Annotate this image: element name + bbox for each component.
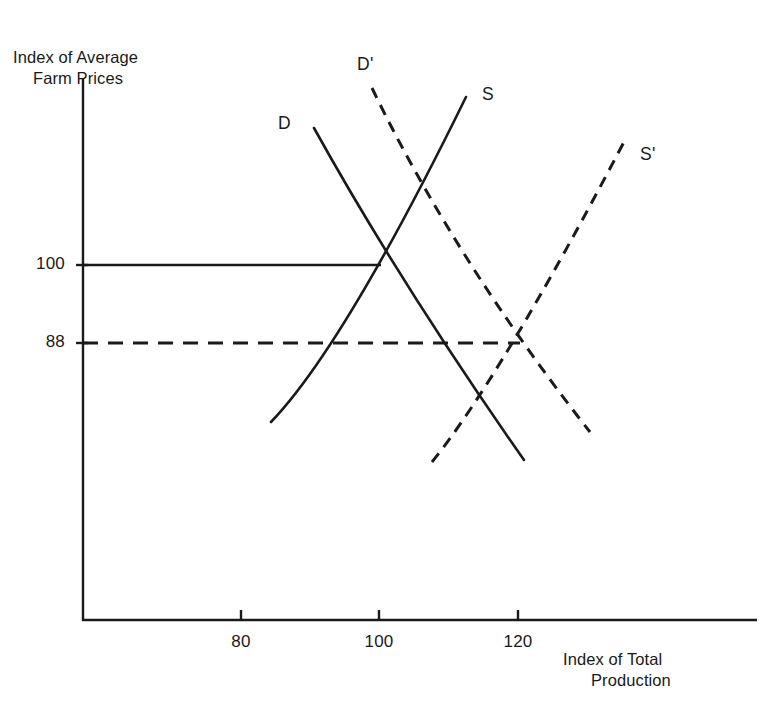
x-tick-label-80: 80 bbox=[216, 632, 266, 652]
x-axis-title-line1: Index of Total bbox=[563, 650, 662, 668]
y-tick-label-100: 100 bbox=[5, 254, 65, 274]
y-axis-title-line1: Index of Average bbox=[13, 48, 138, 66]
y-axis-title-line2: Farm Prices bbox=[13, 68, 138, 89]
supply-curve-s bbox=[271, 97, 466, 422]
supply-curve-s-prime bbox=[432, 140, 625, 462]
x-axis-title-line2: Production bbox=[563, 670, 671, 691]
farm-price-supply-demand-chart: Index of Average Farm Prices Index of To… bbox=[0, 0, 784, 705]
curve-label-s: S bbox=[482, 84, 494, 105]
curve-label-d: D bbox=[278, 113, 291, 134]
y-axis-title: Index of Average Farm Prices bbox=[13, 26, 138, 110]
y-tick-label-88: 88 bbox=[5, 332, 65, 352]
curve-label-s-prime: S' bbox=[640, 144, 656, 165]
x-axis-title: Index of Total Production bbox=[563, 628, 671, 705]
demand-curve-d-prime bbox=[372, 88, 590, 432]
x-tick-label-100: 100 bbox=[354, 632, 404, 652]
curve-label-d-prime: D' bbox=[357, 54, 374, 75]
x-tick-label-120: 120 bbox=[493, 632, 543, 652]
